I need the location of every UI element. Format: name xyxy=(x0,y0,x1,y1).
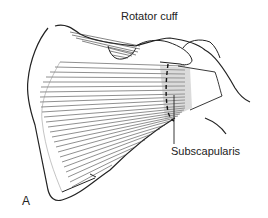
humerus-outline xyxy=(136,40,220,65)
subscapularis-label: Subscapularis xyxy=(171,146,240,157)
panel-label: A xyxy=(22,195,30,207)
tendon-shading xyxy=(160,66,192,120)
anatomy-figure: Rotator cuff Subscapularis A xyxy=(0,0,268,218)
rotator-cuff-label: Rotator cuff xyxy=(121,11,178,22)
scapula-illustration xyxy=(0,0,268,218)
